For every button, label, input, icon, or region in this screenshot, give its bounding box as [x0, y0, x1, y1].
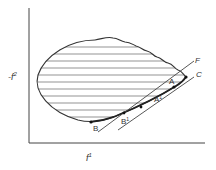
y-axis-label: -f2	[8, 71, 18, 82]
point-b1-label: B1	[121, 116, 129, 126]
line-f	[98, 61, 194, 132]
point-a-label: A	[169, 77, 175, 86]
line-f-label: F	[195, 56, 201, 65]
point-top	[184, 75, 187, 78]
x-axis-label: f1	[86, 152, 92, 163]
feasible-region-outline	[37, 40, 186, 121]
point-a1-label: A1	[154, 94, 162, 104]
point-b1b	[123, 112, 126, 115]
region-hatching	[30, 47, 200, 117]
line-c-label: C	[196, 70, 202, 79]
point-b-label: B	[93, 124, 98, 133]
point-b1	[140, 106, 143, 109]
scalloped-boundary	[95, 37, 186, 77]
diagram-canvas: -f2 f1 F C A A1 B B1	[0, 0, 216, 170]
